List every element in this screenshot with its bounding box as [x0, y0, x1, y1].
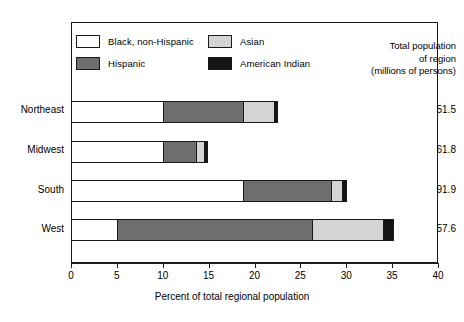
total-value-west: 57.6 — [396, 223, 456, 234]
bar-segment-west-hispanic — [117, 219, 312, 241]
bar-segment-midwest-black-non-hispanic — [71, 141, 163, 163]
total-value-midwest: 61.8 — [396, 144, 456, 155]
bar-segment-northeast-black-non-hispanic — [71, 101, 163, 123]
category-label-northeast: Northeast — [0, 104, 64, 115]
category-label-west: West — [0, 223, 64, 234]
x-tick-label-15: 15 — [194, 270, 224, 281]
x-tick-25 — [300, 263, 301, 268]
bar-segment-northeast-american-indian — [274, 101, 279, 123]
bars-layer — [71, 22, 438, 263]
bar-segment-west-asian — [312, 219, 383, 241]
total-value-south: 91.9 — [396, 184, 456, 195]
x-tick-10 — [163, 263, 164, 268]
bar-segment-south-asian — [331, 180, 342, 202]
x-tick-40 — [438, 263, 439, 268]
bar-segment-midwest-hispanic — [163, 141, 196, 163]
x-tick-15 — [209, 263, 210, 268]
total-value-northeast: 51.5 — [396, 104, 456, 115]
x-tick-label-35: 35 — [377, 270, 407, 281]
x-tick-5 — [117, 263, 118, 268]
x-tick-label-0: 0 — [56, 270, 86, 281]
x-axis-title: Percent of total regional population — [0, 291, 464, 302]
x-tick-label-25: 25 — [285, 270, 315, 281]
bar-segment-south-hispanic — [243, 180, 330, 202]
x-tick-label-30: 30 — [331, 270, 361, 281]
bar-segment-south-black-non-hispanic — [71, 180, 243, 202]
bar-segment-midwest-american-indian — [204, 141, 208, 163]
bar-segment-south-american-indian — [342, 180, 348, 202]
x-tick-35 — [392, 263, 393, 268]
bar-segment-west-american-indian — [383, 219, 394, 241]
bar-segment-midwest-asian — [196, 141, 204, 163]
bar-segment-northeast-hispanic — [163, 101, 244, 123]
x-tick-label-5: 5 — [102, 270, 132, 281]
x-tick-label-40: 40 — [423, 270, 453, 281]
category-label-south: South — [0, 184, 64, 195]
x-tick-label-10: 10 — [148, 270, 178, 281]
bar-segment-northeast-asian — [243, 101, 273, 123]
x-tick-label-20: 20 — [240, 270, 270, 281]
chart-root: Black, non-Hispanic Asian Hispanic Ameri… — [0, 0, 464, 322]
x-tick-20 — [255, 263, 256, 268]
category-label-midwest: Midwest — [0, 144, 64, 155]
bar-segment-west-black-non-hispanic — [71, 219, 117, 241]
x-tick-30 — [346, 263, 347, 268]
x-tick-0 — [71, 263, 72, 268]
